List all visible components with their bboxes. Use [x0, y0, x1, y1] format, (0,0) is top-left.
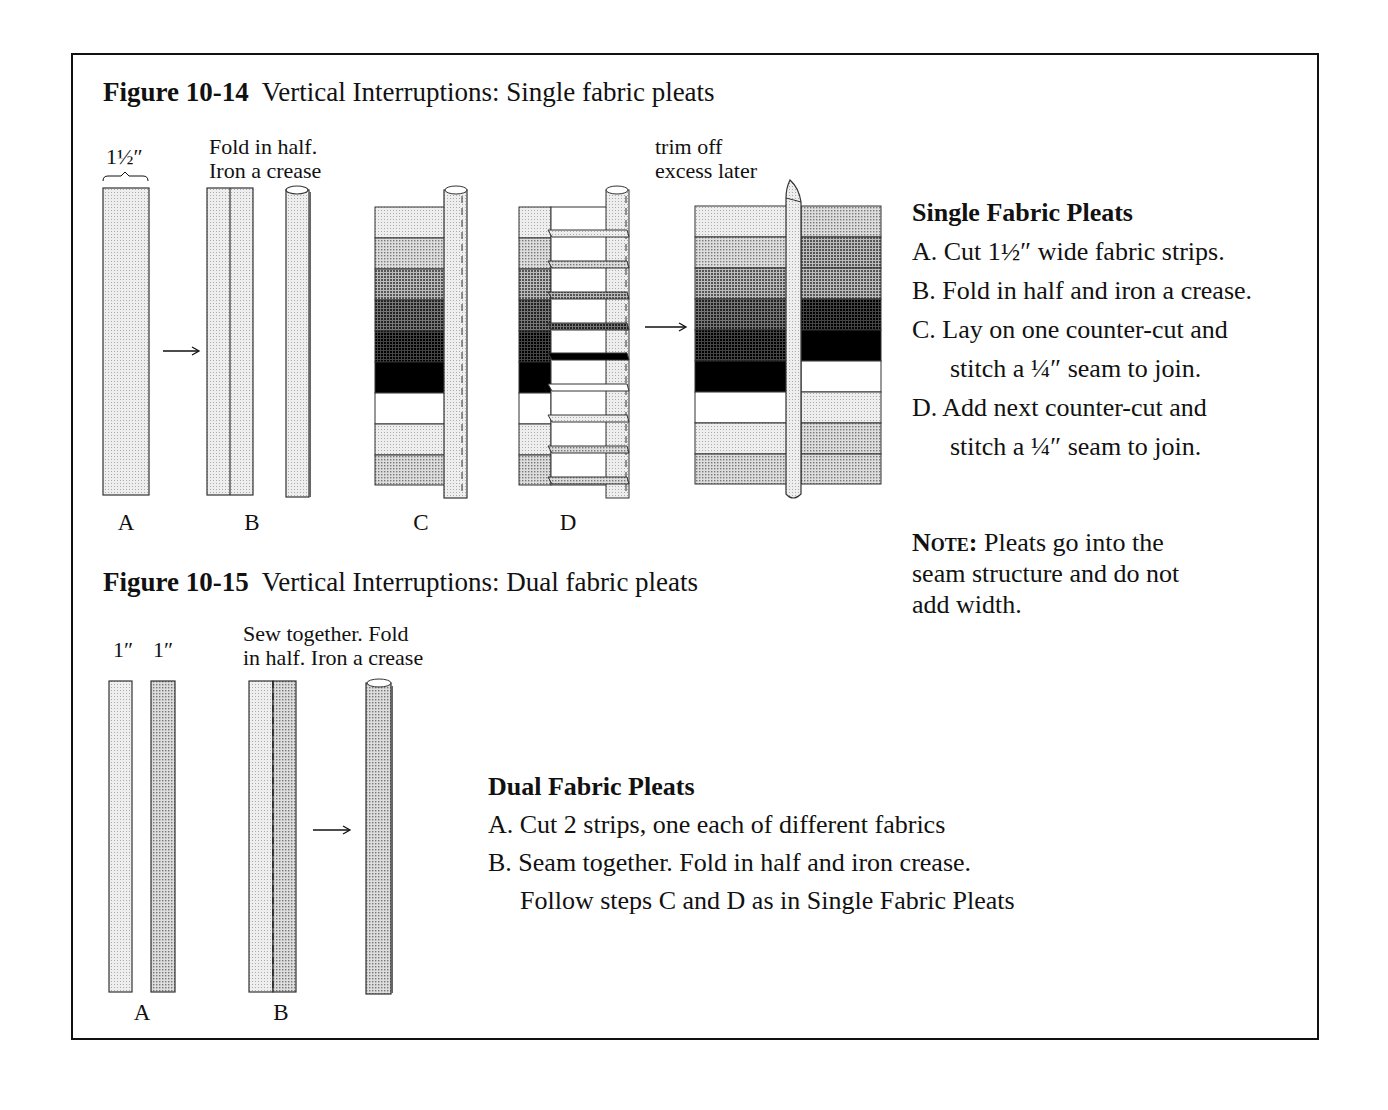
instruction-line: D. Add next counter-cut and [912, 388, 1252, 427]
single-pleats-heading: Single Fabric Pleats [912, 193, 1252, 232]
instruction-line: stitch a ¼″ seam to join. [912, 427, 1252, 466]
sew-label: Sew together. Fold in half. Iron a creas… [243, 622, 423, 670]
trim-label: trim off excess later [655, 135, 757, 183]
arrow-icon [313, 826, 350, 834]
width-label-2: 1″ [153, 638, 173, 662]
figure-14-caption: Vertical Interruptions: Single fabric pl… [262, 77, 715, 107]
fold-label: Fold in half. Iron a crease [209, 135, 321, 183]
step-label-c: C [411, 510, 431, 536]
figure-15-title: Figure 10-15 Vertical Interruptions: Dua… [103, 567, 698, 598]
arrow-icon [163, 347, 199, 355]
note-label: Note: [912, 528, 977, 557]
figure-14-title: Figure 10-14 Vertical Interruptions: Sin… [103, 77, 715, 108]
instruction-line: A. Cut 1½″ wide fabric strips. [912, 232, 1252, 271]
final-block [695, 180, 881, 498]
instruction-line: C. Lay on one counter-cut and [912, 310, 1252, 349]
instruction-line: A. Cut 2 strips, one each of different f… [488, 806, 1015, 844]
strip-a [103, 172, 149, 495]
step-label-a: A [116, 510, 136, 536]
width-label-1: 1″ [113, 638, 133, 662]
dual-strip-folded [366, 679, 392, 994]
step-d-block [519, 186, 629, 498]
step-label-a: A [132, 1000, 152, 1026]
step-label-b: B [242, 510, 262, 536]
strip-b-open [207, 188, 253, 495]
step-c-block [375, 186, 467, 498]
dual-pleats-heading: Dual Fabric Pleats [488, 768, 1015, 806]
figure-15-number: Figure 10-15 [103, 567, 249, 597]
arrow-icon [645, 323, 686, 331]
instruction-line: Follow steps C and D as in Single Fabric… [488, 882, 1015, 920]
instruction-line: B. Fold in half and iron a crease. [912, 271, 1252, 310]
instruction-line: stitch a ¼″ seam to join. [912, 349, 1252, 388]
step-label-d: D [558, 510, 578, 536]
dual-strip-b [249, 681, 296, 992]
dual-strips-a [109, 681, 175, 992]
step-label-b: B [271, 1000, 291, 1026]
strip-b-folded [286, 186, 310, 497]
single-pleats-instructions: Single Fabric Pleats A. Cut 1½″ wide fab… [912, 193, 1252, 466]
dual-pleats-instructions: Dual Fabric Pleats A. Cut 2 strips, one … [488, 768, 1015, 920]
instruction-line: B. Seam together. Fold in half and iron … [488, 844, 1015, 882]
figure-15-caption: Vertical Interruptions: Dual fabric plea… [262, 567, 698, 597]
width-label: 1½″ [106, 145, 143, 169]
note: Note: Pleats go into the seam structure … [912, 527, 1179, 620]
figure-14-number: Figure 10-14 [103, 77, 249, 107]
